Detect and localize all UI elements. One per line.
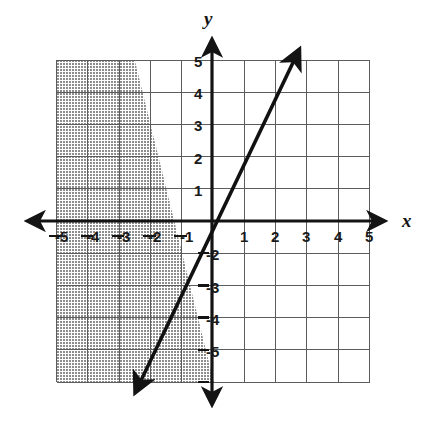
y-tick-label-4: 4 bbox=[194, 86, 202, 101]
x-tick-label-1: 1 bbox=[240, 229, 248, 244]
y-tick-label--5: -5 bbox=[206, 344, 219, 359]
x-tick-label--1: -1 bbox=[180, 229, 193, 244]
y-tick-label--4: -4 bbox=[206, 312, 219, 327]
x-tick-label-4: 4 bbox=[334, 229, 342, 244]
x-axis-label: x bbox=[402, 211, 412, 230]
x-tick-label-2: 2 bbox=[271, 229, 279, 244]
y-tick-label-2: 2 bbox=[194, 151, 202, 166]
y-tick-label-3: 3 bbox=[194, 118, 202, 133]
graph-figure: y x -5 -4 -3 -2 -1 1 2 3 4 5 5 4 3 2 1 -… bbox=[0, 0, 432, 429]
x-tick-label--4: -4 bbox=[86, 229, 99, 244]
y-axis-label: y bbox=[204, 9, 212, 28]
x-tick-label-3: 3 bbox=[302, 229, 310, 244]
y-tick-label-1: 1 bbox=[194, 183, 202, 198]
y-tick-label-5: 5 bbox=[194, 54, 202, 69]
y-tick-label--3: -3 bbox=[206, 280, 219, 295]
x-tick-label--5: -5 bbox=[55, 229, 68, 244]
x-tick-label-5: 5 bbox=[365, 229, 373, 244]
coordinate-plane bbox=[0, 0, 432, 429]
x-tick-label--2: -2 bbox=[148, 229, 161, 244]
x-tick-label--3: -3 bbox=[117, 229, 130, 244]
y-tick-label--2: -2 bbox=[206, 247, 219, 262]
